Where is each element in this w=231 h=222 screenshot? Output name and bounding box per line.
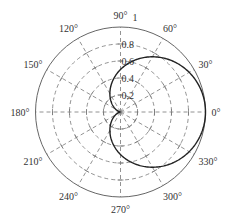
tick-mark	[60, 75, 63, 80]
tick-mark	[163, 84, 166, 89]
tick-mark	[101, 81, 106, 84]
tick-mark	[92, 155, 97, 158]
tick-mark	[148, 92, 151, 97]
angle-label-180: 180°	[11, 107, 30, 118]
tick-mark	[135, 81, 140, 84]
radial-label: 0.4	[122, 73, 135, 84]
tick-mark	[60, 143, 63, 148]
radial-label: 0.6	[122, 56, 135, 67]
tick-mark	[135, 140, 140, 143]
tick-mark	[92, 66, 97, 69]
tick-mark	[104, 118, 107, 123]
angle-label-150: 150°	[23, 59, 42, 70]
tick-mark	[178, 75, 181, 80]
radial-label: 0.8	[122, 39, 135, 50]
tick-mark	[152, 169, 157, 172]
tick-mark	[75, 135, 78, 140]
tick-mark	[178, 143, 181, 148]
angle-label-270: 270°	[111, 204, 130, 215]
tick-mark	[148, 126, 151, 131]
angle-label-240: 240°	[59, 191, 78, 202]
tick-mark	[75, 84, 78, 89]
tick-labels: 0°30°60°90°120°150°180°210°240°270°300°3…	[11, 10, 221, 215]
angle-label-0: 0°	[212, 107, 221, 118]
tick-mark	[90, 92, 93, 97]
angle-label-330: 330°	[199, 156, 218, 167]
grid-spoke	[78, 112, 121, 186]
angle-label-60: 60°	[163, 23, 177, 34]
tick-mark	[134, 101, 137, 106]
radial-label: 1	[133, 12, 138, 23]
tick-mark	[84, 169, 89, 172]
tick-mark	[84, 52, 89, 55]
radial-label: 0.2	[122, 90, 135, 101]
tick-mark	[143, 155, 148, 158]
angle-label-210: 210°	[23, 156, 42, 167]
angle-label-90: 90°	[114, 10, 128, 21]
tick-mark	[90, 126, 93, 131]
tick-mark	[134, 118, 137, 123]
angle-label-300: 300°	[163, 191, 182, 202]
grid-spoke	[78, 38, 121, 112]
tick-mark	[152, 52, 157, 55]
tick-mark	[143, 66, 148, 69]
tick-mark	[101, 140, 106, 143]
angle-label-120: 120°	[59, 23, 78, 34]
grid-spoke	[121, 112, 195, 155]
polar-chart: 0°30°60°90°120°150°180°210°240°270°300°3…	[0, 0, 231, 222]
grid-spoke	[121, 112, 164, 186]
tick-mark	[163, 135, 166, 140]
tick-mark	[104, 101, 107, 106]
tick-mark	[126, 125, 131, 128]
angle-label-30: 30°	[199, 59, 213, 70]
